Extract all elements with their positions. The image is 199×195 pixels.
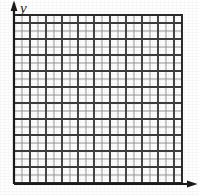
grid-background (14, 15, 182, 183)
coordinate-grid-figure: y (0, 0, 199, 195)
y-axis-arrowhead-icon (11, 1, 18, 12)
x-axis-arrowhead-icon (187, 181, 198, 188)
y-axis-label: y (20, 1, 27, 16)
grid-canvas (0, 0, 199, 195)
grid-field (14, 15, 182, 183)
